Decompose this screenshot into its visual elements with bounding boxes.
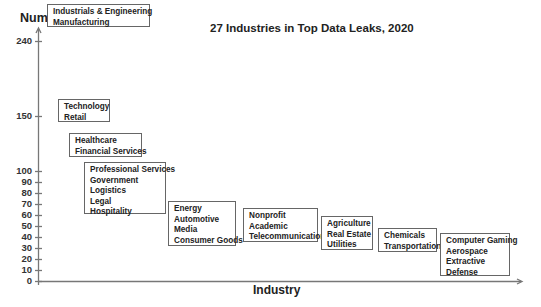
y-tick-label: 150 (2, 111, 32, 121)
industry-label: Manufacturing (53, 18, 144, 29)
industry-label: Aerospace (446, 247, 504, 258)
industry-label: Chemicals (384, 231, 431, 242)
industry-label: Government (90, 176, 160, 187)
industry-group-box: Healthcare Financial Services (69, 133, 142, 157)
y-tick-label: 50 (2, 221, 32, 231)
industry-label: Healthcare (75, 136, 136, 147)
industry-label: Media (174, 225, 230, 236)
y-tick-label: 100 (2, 166, 32, 176)
y-tick-label: 240 (2, 36, 32, 46)
industry-group-box: Chemicals Transportation (378, 228, 437, 252)
industry-label: Academic (249, 222, 312, 233)
industry-label: Extractive (446, 257, 504, 268)
industry-label: Retail (64, 113, 104, 124)
industry-group-box: Professional Services Government Logisti… (84, 162, 166, 214)
industry-label: Technology (64, 102, 104, 113)
industry-label: Transportation (384, 242, 431, 253)
y-tick-label: 60 (2, 210, 32, 220)
industry-label: Computer Gaming (446, 236, 504, 247)
industry-label: Automotive (174, 215, 230, 226)
industry-group-box: Agriculture Real Estate Utilities (321, 216, 373, 250)
y-tick-label: 10 (2, 265, 32, 275)
industry-label: Defense (446, 268, 504, 279)
chart-title: 27 Industries in Top Data Leaks, 2020 (210, 22, 414, 34)
industry-label: Real Estate (327, 230, 367, 241)
y-tick-label: 40 (2, 232, 32, 242)
industry-label: Legal (90, 197, 160, 208)
industry-label: Financial Services (75, 147, 136, 158)
industry-group-box: Computer Gaming Aerospace Extractive Def… (440, 233, 510, 276)
industry-label: Hospitality (90, 207, 160, 218)
industry-label: Industrials & Engineering (53, 7, 144, 18)
industry-group-box: Energy Automotive Media Consumer Goods (168, 201, 236, 246)
industry-group-box: Technology Retail (58, 99, 110, 122)
y-tick-label: 20 (2, 254, 32, 264)
y-tick-label: 0 (2, 276, 32, 286)
industry-label: Logistics (90, 186, 160, 197)
x-axis-title: Industry (253, 283, 300, 297)
industry-label: Utilities (327, 240, 367, 251)
y-tick-label: 90 (2, 177, 32, 187)
y-tick-label: 80 (2, 188, 32, 198)
industry-label: Consumer Goods (174, 236, 230, 247)
industry-label: Professional Services (90, 165, 160, 176)
industry-label: Energy (174, 204, 230, 215)
industry-group-box: Nonprofit Academic Telecommunications (243, 208, 318, 242)
industry-label: Nonprofit (249, 211, 312, 222)
industry-group-box: Industrials & Engineering Manufacturing (47, 4, 150, 27)
industry-label: Telecommunications (249, 232, 312, 243)
industry-label: Agriculture (327, 219, 367, 230)
y-tick-label: 70 (2, 199, 32, 209)
y-tick-label: 30 (2, 243, 32, 253)
